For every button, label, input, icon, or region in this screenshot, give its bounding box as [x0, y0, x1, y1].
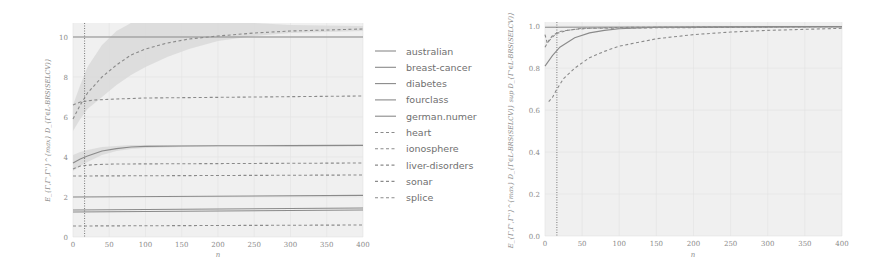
- right-y-axis-label: E_{Γ,Γ',Γ''}^{max} D_{Γ∈L-BRS(SELCV)} su…: [507, 12, 515, 249]
- legend-item-ionosphere: ionosphere: [375, 143, 459, 154]
- x-tick-label: 350: [798, 240, 811, 248]
- legend-label: liver-disorders: [406, 160, 473, 171]
- legend-label: australian: [406, 46, 453, 57]
- x-tick-label: 200: [687, 240, 700, 248]
- x-tick-label: 50: [105, 241, 114, 249]
- x-tick-label: 0: [543, 240, 547, 248]
- right-x-axis-label: n: [691, 251, 696, 259]
- left-y-ticks: 0246810: [59, 34, 68, 242]
- y-tick-label: 10: [59, 34, 68, 42]
- x-tick-label: 100: [613, 240, 626, 248]
- legend-item-heart: heart: [375, 127, 432, 138]
- x-tick-label: 250: [724, 240, 737, 248]
- y-tick-label: 6: [64, 114, 69, 122]
- legend-item-liver-disorders: liver-disorders: [375, 160, 473, 171]
- left-x-axis-label: n: [216, 251, 221, 259]
- y-tick-label: 4: [64, 154, 69, 162]
- x-tick-label: 200: [211, 241, 224, 249]
- x-tick-label: 400: [835, 240, 848, 248]
- legend-item-diabetes: diabetes: [375, 78, 447, 89]
- left-y-axis-label: E_{Γ,Γ',Γ''}^{max} D_{Γ∈L-BRS(SELCV)}: [44, 58, 52, 203]
- legend-item-breast-cancer: breast-cancer: [375, 62, 472, 73]
- legend-item-splice: splice: [375, 192, 433, 203]
- y-tick-label: 0.4: [529, 149, 541, 157]
- x-tick-label: 300: [761, 240, 774, 248]
- x-tick-label: 150: [175, 241, 188, 249]
- legend-label: splice: [406, 192, 433, 203]
- legend-label: sonar: [406, 176, 433, 187]
- y-tick-label: 0: [64, 234, 68, 242]
- x-tick-label: 350: [320, 241, 333, 249]
- legend-label: breast-cancer: [406, 62, 472, 73]
- x-tick-label: 250: [248, 241, 261, 249]
- legend-label: german.numer: [406, 111, 477, 122]
- x-tick-label: 400: [356, 241, 369, 249]
- figure: 050100150200250300350400 0246810 n E_{Γ,…: [0, 0, 888, 265]
- x-tick-label: 50: [578, 240, 587, 248]
- right-chart: 050100150200250300350400 0.00.20.40.60.8…: [507, 12, 849, 259]
- y-tick-label: 0.2: [529, 191, 540, 199]
- legend-item-australian: australian: [375, 46, 453, 57]
- legend-item-fourclass: fourclass: [375, 94, 449, 105]
- y-tick-label: 0.6: [529, 107, 541, 115]
- x-tick-label: 100: [139, 241, 152, 249]
- y-tick-label: 8: [64, 74, 68, 82]
- x-tick-label: 300: [284, 241, 297, 249]
- right-x-ticks: 050100150200250300350400: [543, 240, 849, 248]
- x-tick-label: 150: [650, 240, 663, 248]
- legend-item-sonar: sonar: [375, 176, 433, 187]
- legend-label: fourclass: [406, 94, 449, 105]
- legend-label: ionosphere: [406, 143, 459, 154]
- y-tick-label: 0.0: [529, 233, 540, 241]
- right-y-ticks: 0.00.20.40.60.81.0: [529, 23, 541, 241]
- legend-item-german.numer: german.numer: [375, 111, 477, 122]
- left-x-ticks: 050100150200250300350400: [71, 241, 370, 249]
- y-tick-label: 1.0: [529, 23, 540, 31]
- x-tick-label: 0: [71, 241, 75, 249]
- legend: australianbreast-cancerdiabetesfourclass…: [375, 46, 477, 204]
- legend-label: diabetes: [406, 78, 447, 89]
- left-chart: 050100150200250300350400 0246810 n E_{Γ,…: [44, 23, 370, 259]
- y-tick-label: 0.8: [529, 65, 540, 73]
- legend-label: heart: [406, 127, 432, 138]
- y-tick-label: 2: [64, 194, 68, 202]
